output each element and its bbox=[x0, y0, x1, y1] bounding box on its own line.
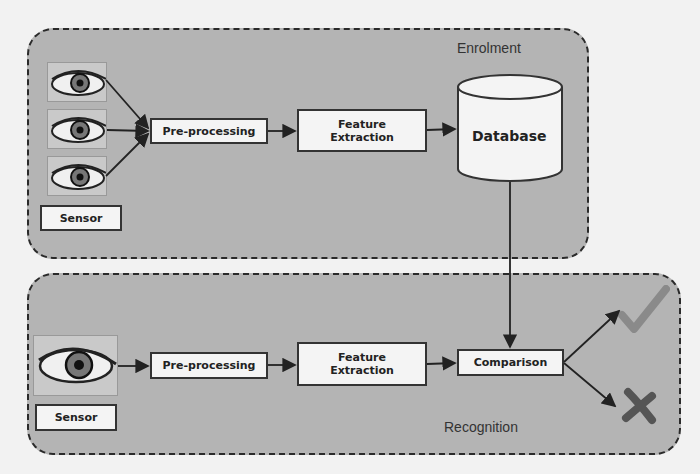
connector-lines bbox=[0, 0, 700, 474]
